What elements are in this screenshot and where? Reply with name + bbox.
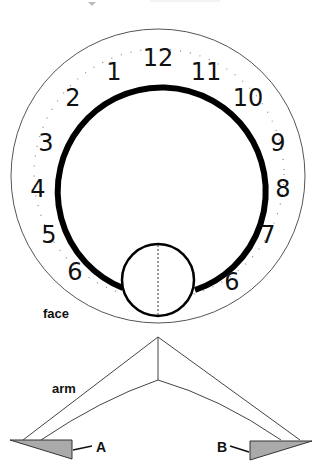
numeral-6-left: 6 [67,258,82,286]
numeral-7: 7 [260,221,275,249]
numeral-4: 4 [30,175,45,203]
numeral-8: 8 [275,175,290,203]
numeral-11: 11 [191,58,222,86]
tab-a-leader [73,446,92,450]
tab-b-leader [230,446,249,452]
top-crop-fragment [88,1,220,6]
clock-face-and-arm-diagram: 1 12 11 2 10 3 9 4 8 5 7 6 6 face arm A … [0,0,328,464]
numeral-10: 10 [233,84,264,112]
face-label: face [43,306,69,321]
numeral-2: 2 [65,84,80,112]
numeral-3: 3 [38,129,53,157]
marker-b-label: B [217,439,227,455]
marker-a-label: A [96,439,106,455]
numeral-9: 9 [270,129,285,157]
numeral-5: 5 [41,221,56,249]
numeral-6-right: 6 [224,268,239,296]
arm-label: arm [52,381,76,396]
tab-b [250,441,312,460]
numeral-1: 1 [106,58,121,86]
tab-a [10,440,72,459]
numeral-12: 12 [143,44,174,72]
